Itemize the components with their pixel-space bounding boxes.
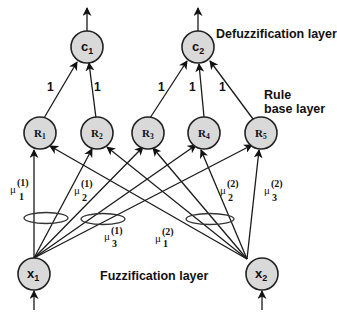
edge-R4-c2 [199,64,204,117]
label-rule-base-layer-line1: Rule [264,88,291,102]
edge-x2-R5 [247,150,259,259]
svg-text:(2): (2) [271,178,283,190]
svg-text:μ: μ [220,184,226,196]
node-R4: R4 [188,117,220,149]
node-x2: x2 [246,258,278,290]
svg-text:(2): (2) [227,178,239,190]
node-x1: x1 [18,258,50,290]
node-R2: R2 [81,117,113,149]
edge-x1-R3 [34,147,143,258]
weight-R3-c2: 1 [158,80,165,94]
edge-R5-c2 [210,61,253,119]
mu-3-1: μ (1) 3 [104,225,123,249]
svg-text:(2): (2) [162,226,174,238]
node-c1: c1 [71,31,103,63]
weight-R1-c1: 1 [47,80,54,94]
svg-text:μ: μ [104,230,110,242]
mu-2-1: μ (1) 2 [74,178,93,203]
mu-1-1: μ (1) 1 [10,177,29,202]
weight-R4-c2: 1 [189,80,196,94]
node-R5: R5 [245,117,277,149]
mu-1-2: μ (2) 1 [155,226,174,249]
edge-x2-R2 [107,147,247,259]
svg-text:(1): (1) [81,178,93,190]
node-c2: c2 [182,31,214,63]
edge-x1-R5 [34,145,252,258]
svg-text:(1): (1) [17,177,29,189]
svg-text:2: 2 [82,192,87,203]
svg-text:μ: μ [155,232,161,244]
mu-3-2: μ (2) 3 [264,178,283,203]
svg-text:(1): (1) [111,225,123,237]
svg-text:μ: μ [74,184,80,196]
mu-2-2: μ (2) 2 [220,178,239,203]
label-defuzzification-layer: Defuzzification layer [216,27,337,41]
edge-x2-R4 [201,150,247,259]
svg-text:1: 1 [163,238,168,249]
membership-group-ellipse-1 [24,213,68,224]
svg-text:μ: μ [10,183,16,195]
svg-text:3: 3 [272,192,277,203]
svg-text:3: 3 [112,238,117,249]
svg-text:2: 2 [228,192,233,203]
node-R3: R3 [132,117,164,149]
svg-text:μ: μ [264,184,270,196]
anfis-network-diagram: c1 c2 R1 R2 R3 R4 R5 x1 x2 1 1 1 1 1 Def… [0,0,337,323]
label-fuzzification-layer: Fuzzification layer [100,269,208,283]
label-rule-base-layer-line2: base layer [264,102,325,116]
node-R1: R1 [24,117,56,149]
edge-R3-c2 [150,61,187,118]
weight-R5-c2: 1 [219,80,226,94]
svg-text:1: 1 [19,191,24,202]
weight-R2-c1: 1 [94,80,101,94]
